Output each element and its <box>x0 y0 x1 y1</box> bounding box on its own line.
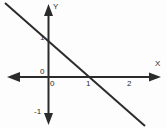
plotted-line-y-equals-neg-x-plus-1 <box>5 3 145 126</box>
y-axis-tick-label-neg-1: -1 <box>34 108 41 116</box>
origin-label-upper: 0 <box>40 68 44 76</box>
x-axis-left-arrow-icon <box>7 72 20 82</box>
y-axis-up-arrow-icon <box>44 4 53 16</box>
y-axis-tick-label-1: 1 <box>40 34 44 42</box>
y-axis-down-arrow-icon <box>44 113 53 125</box>
x-axis-right-arrow-icon <box>149 73 161 82</box>
x-axis-name-label: X <box>155 60 160 68</box>
origin-label-lower: 0 <box>50 80 54 88</box>
x-axis-tick-label-2: 2 <box>127 80 131 88</box>
y-axis-name-label: Y <box>53 3 58 11</box>
coordinate-plane-figure: 1 0 0 1 2 -1 X Y <box>0 0 167 128</box>
x-axis-tick-label-1: 1 <box>86 80 90 88</box>
graph-canvas <box>0 0 167 128</box>
